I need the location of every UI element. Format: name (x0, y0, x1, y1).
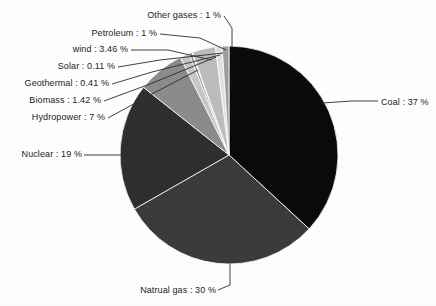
pie-label-wind: wind : 3.46 % (0, 44, 128, 55)
pie-label-coal: Coal : 37 % (381, 97, 429, 108)
leader-line-other-gases (224, 16, 232, 47)
pie-label-other-gases: Other gases : 1 % (0, 10, 221, 21)
pie-chart: Coal : 37 % Natrual gas : 30 % Nuclear :… (0, 0, 436, 306)
pie-slices-group (120, 46, 338, 264)
pie-label-nuclear: Nuclear : 19 % (0, 149, 82, 160)
leader-line-coal (322, 101, 378, 103)
pie-label-solar: Solar : 0.11 % (0, 61, 115, 72)
leader-line-natural-gas (218, 264, 230, 290)
pie-label-petroleum: Petroleum : 1 % (0, 28, 157, 39)
pie-label-geothermal: Geothermal : 0.41 % (0, 78, 109, 89)
pie-label-biomass: Biomass : 1.42 % (0, 95, 101, 106)
pie-label-hydropower: Hydropower : 7 % (0, 112, 105, 123)
pie-label-natural-gas: Natrual gas : 30 % (66, 285, 216, 296)
